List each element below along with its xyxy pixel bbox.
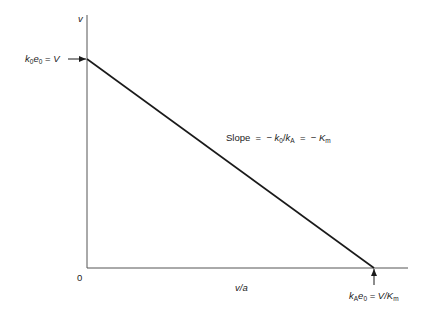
data-line: [87, 59, 374, 268]
y-axis-label: v: [78, 14, 83, 24]
x-axis-label: v/a: [235, 283, 248, 293]
y-intercept-label: k0e0 = V: [25, 54, 59, 66]
diagram-canvas: [0, 0, 429, 313]
origin-label: 0: [77, 273, 82, 283]
slope-annotation: Slope = − k0/kA = − Km: [226, 133, 331, 145]
x-intercept-label: kAe0 = V/Km: [349, 291, 399, 303]
